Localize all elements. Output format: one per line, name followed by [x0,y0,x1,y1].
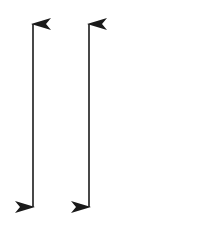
arrows-diagram [0,0,204,235]
diagram-canvas [0,0,204,235]
